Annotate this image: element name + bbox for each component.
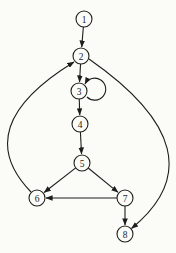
node-label-2: 2	[79, 52, 84, 62]
node-label-3: 3	[77, 87, 82, 97]
node-1: 1	[76, 11, 92, 27]
node-label-5: 5	[80, 159, 85, 169]
diagram-canvas: 12345678	[0, 0, 176, 253]
node-4: 4	[72, 116, 88, 132]
flow-graph-svg: 12345678	[0, 0, 176, 253]
node-label-1: 1	[82, 15, 87, 25]
node-6: 6	[29, 190, 45, 206]
node-label-7: 7	[123, 194, 128, 204]
node-7: 7	[117, 190, 133, 206]
node-5: 5	[74, 155, 90, 171]
node-label-6: 6	[35, 194, 40, 204]
node-3: 3	[71, 83, 87, 99]
node-label-4: 4	[78, 120, 83, 130]
node-label-8: 8	[123, 230, 128, 240]
node-8: 8	[117, 226, 133, 242]
node-2: 2	[73, 48, 89, 64]
